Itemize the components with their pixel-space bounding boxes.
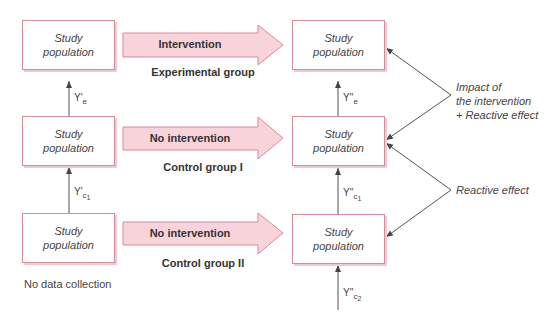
- box-line: population: [43, 45, 94, 59]
- impact-arrow-bottom: [386, 95, 451, 140]
- y-pre-e-label: Y'e: [74, 92, 87, 106]
- box-line: population: [43, 141, 94, 155]
- box-line: Study: [43, 31, 94, 45]
- y-pre-c1-label: Y'c1: [74, 186, 91, 201]
- post-control1-box: Studypopulation: [292, 116, 385, 166]
- pre-control1-box: Studypopulation: [22, 116, 115, 166]
- control-group-2-label: Control group II: [128, 257, 278, 269]
- no-data-collection-label: No data collection: [24, 278, 111, 290]
- box-line: Study: [313, 127, 364, 141]
- y-post-c2-label: Y''c2: [343, 287, 361, 302]
- impact-annotation: Impact of the intervention + Reactive ef…: [456, 80, 538, 122]
- impact-arrow-top: [386, 48, 451, 95]
- y-post-e-label: Y''e: [343, 92, 358, 106]
- box-line: Study: [43, 224, 94, 238]
- control-group-1-label: Control group I: [128, 161, 278, 173]
- box-line: Study: [313, 31, 364, 45]
- box-line: population: [43, 238, 94, 252]
- box-line: population: [313, 239, 364, 253]
- box-line: Study: [313, 225, 364, 239]
- box-line: Study: [43, 127, 94, 141]
- reactive-effect-annotation: Reactive effect: [456, 183, 529, 197]
- box-line: population: [313, 141, 364, 155]
- pre-control2-box: Studypopulation: [22, 213, 115, 263]
- experimental-group-label: Experimental group: [128, 66, 278, 78]
- post-control2-box: Studypopulation: [292, 214, 385, 264]
- pre-experimental-box: Studypopulation: [22, 20, 115, 70]
- y-post-c1-label: Y''c1: [343, 187, 361, 202]
- reactive-arrow-bottom: [386, 190, 451, 237]
- reactive-arrow-top: [386, 143, 451, 190]
- box-line: population: [313, 45, 364, 59]
- intervention-label: Intervention: [122, 38, 258, 50]
- no-intervention-label-2: No intervention: [122, 227, 258, 239]
- no-intervention-label-1: No intervention: [122, 132, 258, 144]
- post-experimental-box: Studypopulation: [292, 20, 385, 70]
